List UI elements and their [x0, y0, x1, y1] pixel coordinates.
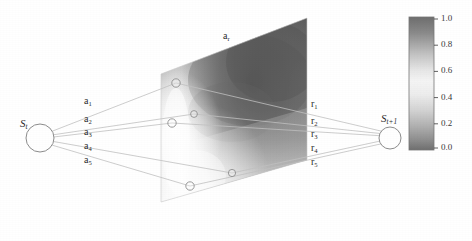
action-edge-3 — [45, 123, 172, 138]
action-label-3: a3 — [84, 127, 92, 138]
action-label-4: a4 — [84, 141, 92, 152]
reward-label-3: r3 — [311, 129, 318, 140]
colorbar-tick-label-6: 0.0 — [441, 143, 452, 152]
reward-label-5: r5 — [311, 157, 318, 168]
plane-label-ar: ar — [223, 31, 230, 42]
colorbar-tick-label-2: 0.8 — [441, 40, 452, 49]
state-t-label: St — [20, 118, 28, 131]
diagram-svg — [0, 0, 472, 241]
reward-label-2: r2 — [311, 116, 318, 127]
colorbar-tick-label-1: 1.0 — [441, 14, 452, 23]
colorbar-tick-label-3: 0.6 — [441, 66, 452, 75]
state-t-plus-1-label: St+1 — [381, 113, 397, 126]
state-t-plus-1-node — [379, 127, 401, 149]
marker-5 — [186, 182, 194, 190]
value-surface-plane — [161, 18, 318, 202]
colorbar-tick-label-5: 0.2 — [441, 119, 452, 128]
marker-3 — [168, 119, 176, 127]
marker-4 — [228, 169, 235, 176]
marker-2 — [191, 111, 198, 118]
reward-label-4: r4 — [311, 143, 318, 154]
action-label-5: a5 — [84, 155, 92, 166]
figure-canvas: St St+1 ar a1 a2 a3 a4 a5 r1 r2 r3 r4 r5… — [0, 0, 472, 241]
colorbar-group — [409, 17, 438, 150]
marker-1 — [172, 79, 180, 87]
reward-label-1: r1 — [311, 99, 318, 110]
colorbar-ticks — [434, 19, 438, 148]
action-label-2: a2 — [84, 114, 92, 125]
action-label-1: a1 — [84, 96, 92, 107]
state-t-node — [26, 124, 54, 152]
colorbar-tick-label-4: 0.4 — [441, 93, 452, 102]
colorbar-gradient — [409, 17, 434, 150]
